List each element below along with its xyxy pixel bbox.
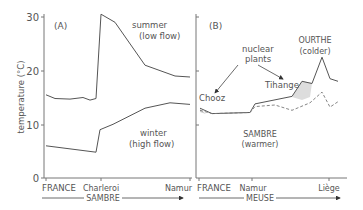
ourthe-label-2: (colder) xyxy=(299,47,330,56)
ytick-label-10: 10 xyxy=(26,120,39,131)
arrow-to-chooz xyxy=(215,65,238,93)
river-temperature-figure: 30 20 10 0 temperature (°C) FRANCE Charl… xyxy=(0,0,363,210)
nuclear-label-1: nuclear xyxy=(242,44,274,54)
x-label-france-a: FRANCE xyxy=(42,183,76,193)
chooz-label: Chooz xyxy=(199,93,226,103)
summer-line xyxy=(46,14,190,100)
ytick-label-20: 20 xyxy=(26,66,39,77)
panel-a: 30 20 10 0 temperature (°C) FRANCE Charl… xyxy=(16,12,193,203)
x-label-france-b: FRANCE xyxy=(197,183,231,193)
panel-b-label: (B) xyxy=(209,21,222,31)
nuclear-label-2: plants xyxy=(245,54,272,64)
x-label-namur-a: Namur xyxy=(165,184,193,193)
winter-label-1: winter xyxy=(140,128,167,138)
y-axis-title: temperature (°C) xyxy=(16,61,26,134)
summer-label-1: summer xyxy=(132,20,168,30)
sambre-warmer-label-2: (warmer) xyxy=(242,140,279,149)
arrow-to-tihange xyxy=(258,65,283,79)
ytick-label-30: 30 xyxy=(26,12,39,23)
river-label-sambre: SAMBRE xyxy=(86,194,120,203)
ytick-label-0: 0 xyxy=(33,173,39,184)
winter-label-2: (high flow) xyxy=(129,139,174,149)
ourthe-label-1: OURTHE xyxy=(298,36,331,45)
x-label-namur-b: Namur xyxy=(239,184,267,193)
x-label-charleroi: Charleroi xyxy=(83,184,119,193)
sambre-warmer-label-1: SAMBRE xyxy=(243,130,277,139)
panel-b: FRANCE Namur Liège MEUSE (B) nuclear pla… xyxy=(196,14,347,203)
river-label-meuse: MEUSE xyxy=(246,194,274,203)
summer-label-2: (low flow) xyxy=(139,31,180,41)
panel-a-label: (A) xyxy=(54,21,67,31)
x-label-liege: Liège xyxy=(318,183,340,193)
tihange-label: Tihange xyxy=(264,80,299,90)
